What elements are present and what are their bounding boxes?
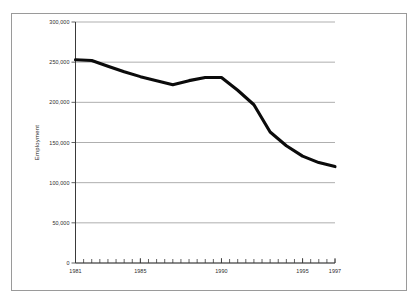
x-tick-label: 1981 — [69, 268, 81, 274]
data-series-line — [76, 60, 336, 167]
x-tick-label: 1997 — [329, 268, 341, 274]
y-axis-label: Employment — [34, 125, 40, 160]
y-tick-label: 0 — [66, 260, 69, 266]
x-tick-label: 1990 — [215, 268, 227, 274]
y-tick-label: 100,000 — [49, 180, 69, 186]
x-tick-label: 1985 — [134, 268, 146, 274]
chart-plot-area: 050,000100,000150,000200,000250,000300,0… — [0, 0, 420, 305]
gridlines — [76, 22, 336, 263]
y-axis-ticks: 050,000100,000150,000200,000250,000300,0… — [49, 19, 75, 266]
x-axis-ticks: 19811985199019951997 — [69, 258, 341, 274]
y-tick-label: 250,000 — [49, 59, 69, 65]
y-tick-label: 200,000 — [49, 99, 69, 105]
y-tick-label: 150,000 — [49, 140, 69, 146]
chart-figure: · · 050,000100,000150,000200,000250,0003… — [0, 0, 420, 305]
y-tick-label: 300,000 — [49, 19, 69, 25]
y-tick-label: 50,000 — [52, 220, 69, 226]
y-axis-label-text: Employment — [34, 125, 40, 160]
x-tick-label: 1995 — [296, 268, 308, 274]
